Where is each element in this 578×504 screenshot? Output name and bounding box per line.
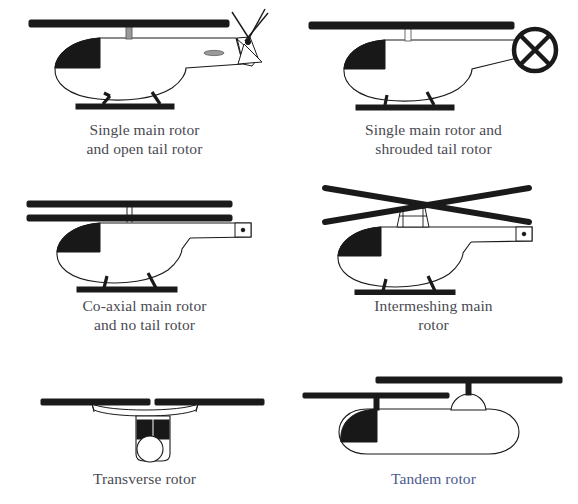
helicopter-configurations-figure: Single main rotor and open tail rotor [0, 0, 578, 504]
shrouded-tail-rotor-icon [514, 29, 556, 71]
aft-pylon [451, 394, 486, 410]
diagram-transverse-rotor [0, 360, 289, 465]
panel-caption-single-main-shrouded-tail: Single main rotor and shrouded tail roto… [289, 120, 578, 158]
wing [92, 404, 198, 416]
panel-caption-single-main-open-tail: Single main rotor and open tail rotor [0, 120, 289, 158]
tail-end-dot [241, 228, 245, 232]
dark-cockpit-window [344, 40, 385, 69]
main-rotor-disc [309, 22, 514, 29]
panel-caption-co-axial-main-no-tail: Co-axial main rotor and no tail rotor [0, 296, 289, 334]
tail-end-dot [522, 232, 526, 236]
nose-circle [137, 436, 163, 462]
dark-cockpit-window [55, 38, 100, 68]
dark-cockpit-window [57, 223, 100, 252]
dark-windscreen-right [154, 420, 169, 439]
main-rotor-disc [29, 20, 229, 27]
rotor-mast [405, 28, 411, 41]
tailboom-window [204, 50, 224, 55]
dark-cockpit-window [341, 409, 377, 442]
diagram-intermeshing-main [289, 175, 578, 295]
panel-intermeshing-main: Intermeshing main rotor [289, 175, 578, 334]
diagram-co-axial-main-no-tail [0, 175, 289, 295]
right-rotor-disc [155, 399, 264, 405]
landing-skid [356, 105, 454, 110]
panel-caption-transverse-rotor: Transverse rotor [0, 469, 289, 488]
landing-skid [77, 287, 177, 292]
forward-rotor-disc [303, 393, 449, 398]
panel-transverse-rotor: Transverse rotor [0, 360, 289, 488]
landing-skid [355, 290, 455, 295]
panel-tandem-rotor: Tandem rotor [289, 360, 578, 488]
landing-skid [76, 104, 174, 109]
dark-cockpit-window [338, 227, 381, 256]
panel-single-main-open-tail: Single main rotor and open tail rotor [0, 0, 289, 158]
lower-rotor-disc [27, 215, 232, 221]
aft-rotor-disc [376, 377, 562, 383]
panel-caption-intermeshing-main: Intermeshing main rotor [289, 296, 578, 334]
panel-caption-tandem-rotor: Tandem rotor [289, 469, 578, 488]
skid-strut-front [385, 95, 387, 105]
left-rotor-disc [41, 399, 150, 405]
diagram-single-main-open-tail [0, 0, 289, 118]
aft-mast [466, 382, 471, 395]
panel-single-main-shrouded-tail: Single main rotor and shrouded tail roto… [289, 0, 578, 158]
diagram-single-main-shrouded-tail [289, 0, 578, 118]
panel-co-axial-main-no-tail: Co-axial main rotor and no tail rotor [0, 175, 289, 334]
upper-rotor-disc [27, 201, 232, 207]
diagram-tandem-rotor [289, 360, 578, 465]
rotor-mast [126, 26, 132, 39]
